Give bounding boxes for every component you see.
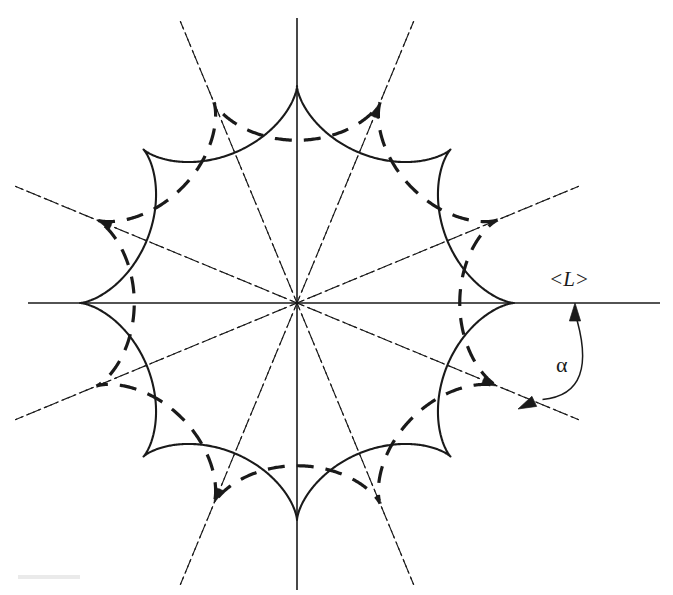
scan-artifact	[18, 575, 80, 579]
angle-arc-alpha	[518, 303, 583, 409]
axes-group	[28, 18, 660, 590]
cusp-arrowhead-1	[370, 103, 380, 119]
cusp-arrowhead-5	[214, 487, 224, 503]
cusp-arrowhead-3	[97, 220, 113, 230]
hypocycloid-star-figure	[0, 0, 673, 595]
cusp-arrowhead-7	[481, 376, 497, 386]
alpha-arrow-to-axis	[569, 303, 580, 321]
figure-root: <L> α	[0, 0, 673, 595]
mean-length-label: <L>	[549, 267, 589, 292]
angle-label-alpha: α	[556, 352, 568, 378]
